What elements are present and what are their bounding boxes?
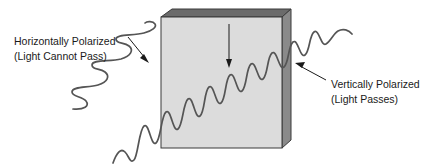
- slab-side-face: [282, 9, 291, 148]
- polarizing-filter-slab: [161, 9, 291, 148]
- polarization-diagram: Horizontally Polarized (Light Cannot Pas…: [0, 0, 427, 166]
- slab-top-face: [161, 9, 291, 17]
- right-label-leader-arrow: [295, 62, 326, 80]
- left-label-line2: (Light Cannot Pass): [14, 50, 107, 62]
- left-label-line1: Horizontally Polarized: [14, 35, 116, 47]
- diagram-canvas: Horizontally Polarized (Light Cannot Pas…: [0, 0, 427, 166]
- right-label-line2: (Light Passes): [331, 93, 398, 105]
- right-label-group: Vertically Polarized (Light Passes): [331, 78, 420, 105]
- left-label-group: Horizontally Polarized (Light Cannot Pas…: [14, 35, 116, 62]
- right-label-line1: Vertically Polarized: [331, 78, 420, 90]
